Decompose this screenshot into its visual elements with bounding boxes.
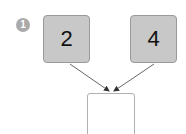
arrow-left — [70, 64, 109, 91]
answer-box[interactable] — [87, 93, 135, 134]
arrow-right — [114, 64, 154, 91]
